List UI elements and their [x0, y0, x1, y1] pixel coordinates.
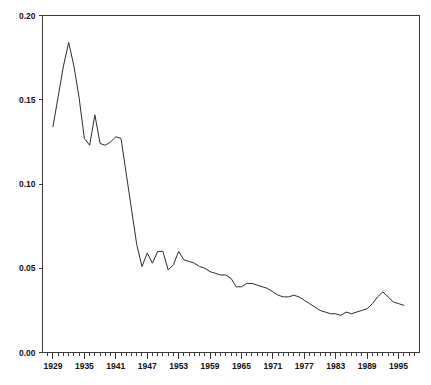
x-tick-label: 1941	[106, 361, 125, 371]
x-tick-label: 1995	[389, 361, 408, 371]
x-tick-label: 1977	[295, 361, 314, 371]
axis-frame	[43, 16, 420, 353]
x-tick-label: 1965	[232, 361, 251, 371]
y-axis-ticks	[39, 16, 43, 353]
line-chart-plot: 0.000.050.100.150.20 1929193519411947195…	[0, 0, 431, 385]
data-series-group	[53, 42, 404, 315]
x-tick-label: 1947	[138, 361, 157, 371]
x-tick-label: 1935	[75, 361, 94, 371]
x-tick-label: 1989	[358, 361, 377, 371]
x-axis-tick-labels: 1929193519411947195319591965197119771983…	[44, 361, 409, 371]
x-axis-minor-ticks	[48, 353, 415, 357]
x-tick-label: 1953	[169, 361, 188, 371]
y-tick-label: 0.15	[19, 95, 36, 105]
chart-figure: 0.000.050.100.150.20 1929193519411947195…	[0, 0, 431, 385]
x-tick-label: 1929	[44, 361, 63, 371]
plot-border	[43, 16, 420, 353]
y-axis-tick-labels: 0.000.050.100.150.20	[19, 11, 36, 358]
x-tick-label: 1983	[326, 361, 345, 371]
data-line-1	[53, 42, 404, 315]
y-tick-label: 0.00	[19, 348, 36, 358]
y-tick-label: 0.05	[19, 263, 36, 273]
x-tick-label: 1959	[201, 361, 220, 371]
x-tick-label: 1971	[263, 361, 282, 371]
y-tick-label: 0.20	[19, 11, 36, 21]
y-tick-label: 0.10	[19, 179, 36, 189]
